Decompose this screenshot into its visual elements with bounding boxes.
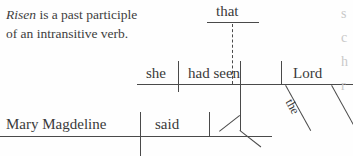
verb-object-divider-main <box>209 112 210 137</box>
clipped-edge-column: s c h r <box>341 2 353 98</box>
clause-subject-she: she <box>146 66 166 81</box>
note-line2: of an intransitive verb. <box>6 26 128 41</box>
main-baseline <box>0 136 272 137</box>
main-subject-mary-magdeline: Mary Magdeline <box>6 117 106 132</box>
explanatory-note: Risen is a past participle of an intrans… <box>6 6 191 43</box>
note-line1-rest: is a past participle <box>36 7 137 22</box>
conjunction-that: that <box>216 4 239 19</box>
edge-fragment-3: h <box>341 50 353 74</box>
subject-verb-divider-upper <box>178 61 179 92</box>
that-baseline <box>207 22 259 23</box>
diagram-page: Risen is a past participle of an intrans… <box>0 0 353 156</box>
tripod-right-leg <box>239 130 261 148</box>
clause-stem-line <box>240 61 241 131</box>
note-italic-word: Risen <box>6 7 36 22</box>
verb-object-divider-upper <box>281 61 282 85</box>
main-verb-said: said <box>155 117 179 132</box>
article-the: the <box>283 97 301 116</box>
edge-fragment-1: s <box>341 2 353 26</box>
clause-baseline <box>137 84 353 85</box>
edge-fragment-4: r <box>341 74 353 98</box>
clause-object-lord: Lord <box>293 66 322 81</box>
subject-verb-divider-main <box>140 112 141 156</box>
edge-fragment-2: c <box>341 26 353 50</box>
clause-verb-had-seen: had seen <box>188 66 240 81</box>
tripod-left-leg <box>219 115 240 132</box>
